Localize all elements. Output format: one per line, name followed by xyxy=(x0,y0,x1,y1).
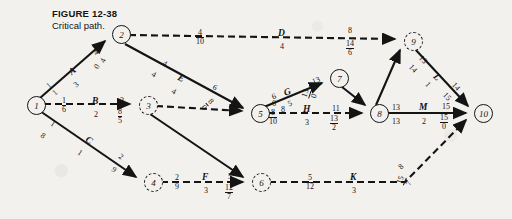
edge-D-tail-fraction: 146 xyxy=(346,40,354,57)
edge-B-letter: B xyxy=(92,96,98,106)
node-2[interactable]: 2 xyxy=(112,25,131,44)
node-1-label: 1 xyxy=(34,101,39,111)
edge-H-letter: H xyxy=(303,104,310,114)
edge-K xyxy=(269,120,466,182)
node-7-label: 7 xyxy=(337,74,342,84)
edge-M-tail-fraction: 150 xyxy=(440,114,448,131)
edge-D-letter: D xyxy=(278,28,285,38)
edge-M-head-bottom: 13 xyxy=(392,117,400,126)
node-10-label: 10 xyxy=(479,109,488,119)
node-4[interactable]: 4 xyxy=(144,173,163,192)
edge-B-tail-top: 3 xyxy=(120,96,124,105)
node-4-label: 4 xyxy=(151,178,156,188)
edge-B-head-fraction: 16 xyxy=(62,97,66,114)
node-6-label: 6 xyxy=(259,178,264,188)
edge-dummy-7-8 xyxy=(342,87,365,105)
edge-F-tail-top: 5 xyxy=(228,172,232,181)
edge-D-tail-stack: 8 xyxy=(348,26,352,35)
edge-M-letter: M xyxy=(419,102,427,112)
edge-M-tail-top: 15 xyxy=(442,102,450,111)
edge-H-head-top: 8 xyxy=(281,105,285,114)
node-7[interactable]: 7 xyxy=(330,69,349,88)
edge-H-tail-top: 11 xyxy=(332,104,340,113)
node-2-label: 2 xyxy=(119,30,124,40)
edge-dummy-3-6 xyxy=(150,114,243,177)
edge-D-head-fraction: 410 xyxy=(196,29,204,46)
node-1[interactable]: 1 xyxy=(27,96,46,115)
node-9[interactable]: 9 xyxy=(404,32,423,51)
node-3[interactable]: 3 xyxy=(139,96,158,115)
edge-F-letter: F xyxy=(202,172,208,182)
node-3-label: 3 xyxy=(146,101,151,111)
edge-H-duration: 3 xyxy=(305,118,309,127)
edge-B-tail-fraction: 85 xyxy=(118,108,122,125)
node-8-label: 8 xyxy=(377,109,382,119)
edge-F-tail-fraction: 127 xyxy=(225,184,233,201)
node-8[interactable]: 8 xyxy=(370,104,389,123)
edge-H-tail-fraction: 132 xyxy=(330,115,338,132)
edge-K-letter: K xyxy=(350,172,356,182)
node-5[interactable]: 5 xyxy=(251,104,270,123)
node-5-incoming-fraction: 810 xyxy=(269,109,277,126)
node-6[interactable]: 6 xyxy=(252,173,271,192)
edge-K-head-fraction: 512 xyxy=(306,174,314,191)
edge-dummy-8-9 xyxy=(376,50,400,105)
node-5-label: 5 xyxy=(258,109,263,119)
node-9-label: 9 xyxy=(411,37,416,47)
edge-D xyxy=(129,35,395,39)
edge-B-duration: 2 xyxy=(94,110,98,119)
edge-F-head-fraction: 29 xyxy=(175,174,179,191)
figure-canvas: FIGURE 12-38 Critical path. 1 2 xyxy=(0,0,512,219)
edge-M-head-top: 13 xyxy=(392,103,400,112)
edge-K-duration: 3 xyxy=(352,186,356,195)
edge-M-duration: 2 xyxy=(422,117,426,126)
edge-D-duration: 4 xyxy=(280,42,284,51)
node-10[interactable]: 10 xyxy=(474,104,493,123)
edge-F-duration: 3 xyxy=(204,186,208,195)
